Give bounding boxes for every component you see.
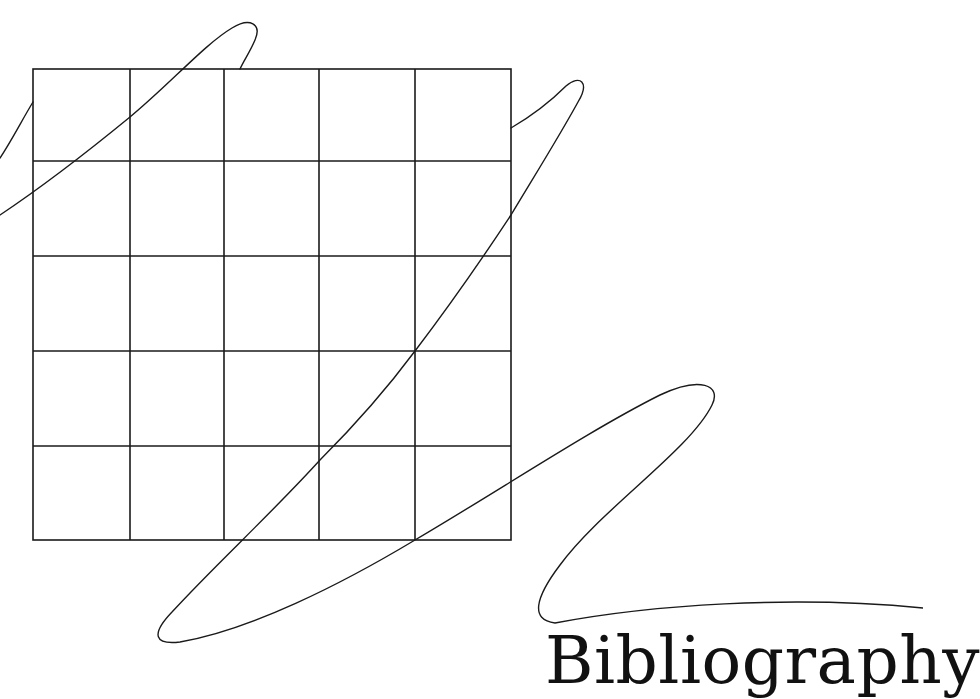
grid-frame <box>33 69 511 540</box>
section-title: Bibliography <box>545 628 980 694</box>
scribble-segment-main <box>158 80 923 642</box>
scribble-segment-top-loop <box>0 23 257 215</box>
scribble-line <box>0 23 923 643</box>
grid <box>33 69 511 540</box>
scribble-segment-left <box>0 102 33 158</box>
